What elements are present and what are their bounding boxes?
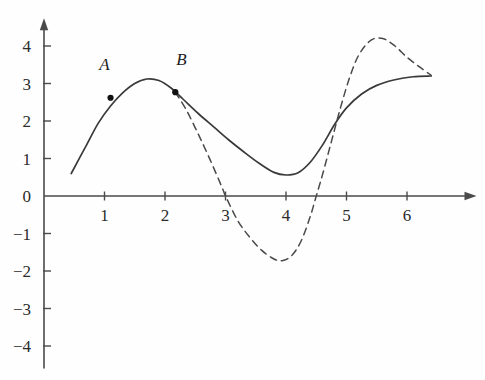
y-axis-arrow [40, 18, 48, 30]
curve-solid-curve [71, 76, 431, 175]
point-label-a: A [98, 55, 110, 74]
data-point-marker-a [107, 95, 113, 101]
data-point-markers-group: AB [98, 50, 187, 101]
data-point-marker-b [172, 89, 178, 95]
y-tick-label: 4 [23, 37, 32, 56]
y-tick-label: 3 [23, 75, 32, 94]
y-tick-label: −4 [13, 337, 32, 356]
x-tick-label: 2 [161, 206, 170, 225]
x-tick-label: 1 [100, 206, 109, 225]
coordinate-plot: 12345643210−1−2−3−4 AB [0, 0, 485, 380]
curves-group [71, 38, 431, 261]
y-tick-label: −1 [13, 225, 31, 244]
curve-dashed-curve [175, 38, 431, 261]
x-axis-arrow [465, 192, 477, 200]
point-label-b: B [176, 50, 187, 69]
x-tick-label: 3 [221, 206, 230, 225]
x-tick-label: 6 [403, 206, 412, 225]
y-tick-label: −3 [13, 300, 31, 319]
y-tick-label: 0 [23, 187, 32, 206]
chart-figure: 12345643210−1−2−3−4 AB [0, 0, 485, 380]
x-tick-label: 5 [342, 206, 351, 225]
y-tick-label: 1 [23, 150, 32, 169]
x-tick-label: 4 [282, 206, 291, 225]
y-tick-label: −2 [13, 262, 31, 281]
y-tick-label: 2 [23, 112, 32, 131]
